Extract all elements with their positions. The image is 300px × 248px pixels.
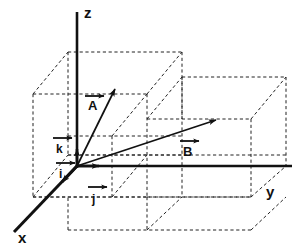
y-axis-label: y — [266, 183, 275, 200]
unit-vector-j-group: j — [77, 166, 107, 206]
unit-vector-k-label: k — [56, 142, 63, 156]
grid-depth-left-topright — [147, 52, 182, 94]
grid-depth-left-inner — [112, 94, 147, 136]
x-axis-label: x — [18, 229, 27, 246]
unit-vector-j-label: j — [91, 192, 95, 206]
axes-group — [14, 12, 292, 232]
grid-floor-mid-depth — [147, 197, 182, 230]
grid-depth-left-botleft — [33, 155, 68, 197]
dashed-box-scaffolding — [33, 52, 286, 230]
grid-depth-right-topright — [251, 77, 286, 119]
z-axis-label: z — [84, 4, 92, 21]
unit-vector-i-label: i — [59, 167, 62, 181]
vector-A-label: A — [88, 98, 98, 113]
coordinate-diagram-svg: A B k i j z y x — [0, 0, 300, 248]
figure-root: A B k i j z y x — [0, 0, 300, 248]
unit-vector-i-arrow — [62, 165, 78, 182]
grid-floor-lower-right-depth — [251, 197, 286, 230]
grid-depth-right-topleft — [147, 77, 182, 119]
vector-B-label: B — [183, 144, 192, 159]
grid-depth-left-topleft — [33, 52, 68, 94]
grid-depth-left-bottom-inner — [112, 155, 147, 197]
